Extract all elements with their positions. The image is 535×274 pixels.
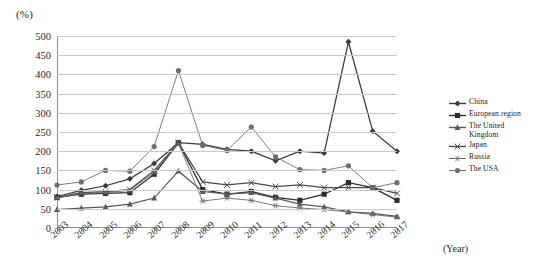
legend-item[interactable]: Russia bbox=[449, 153, 535, 163]
gridline bbox=[57, 190, 397, 191]
data-point-square bbox=[346, 180, 351, 185]
data-point-square bbox=[322, 192, 327, 197]
legend-item[interactable]: China bbox=[449, 98, 535, 108]
data-point-circle bbox=[176, 68, 181, 73]
y-axis-tick-label: 200 bbox=[35, 146, 51, 157]
legend-marker-circle-icon bbox=[449, 166, 466, 175]
chart-legend: ChinaEuropean regionThe United KingdomJa… bbox=[449, 98, 535, 177]
series-the-usa bbox=[54, 68, 399, 190]
data-point-circle bbox=[54, 182, 59, 187]
data-point-square bbox=[394, 198, 399, 203]
y-axis-unit-label: (%) bbox=[16, 8, 33, 20]
y-axis-tick-label: 500 bbox=[35, 31, 51, 42]
data-point-circle bbox=[79, 179, 84, 184]
legend-label: Japan bbox=[469, 141, 487, 150]
data-point-circle bbox=[394, 180, 399, 185]
y-axis-tick-label: 100 bbox=[35, 184, 51, 195]
y-axis-tick-label: 400 bbox=[35, 69, 51, 80]
data-point-diamond bbox=[127, 176, 133, 182]
gridline bbox=[57, 170, 397, 171]
plot-area: 0501001502002503003504004505002003200420… bbox=[57, 36, 397, 228]
gridline bbox=[57, 151, 397, 152]
gridline bbox=[57, 94, 397, 95]
gridline bbox=[57, 36, 397, 37]
data-point-asterisk bbox=[200, 198, 206, 203]
data-point-asterisk bbox=[248, 198, 254, 203]
gridline bbox=[57, 132, 397, 133]
data-point-circle bbox=[200, 143, 205, 148]
legend-label: China bbox=[469, 98, 488, 107]
y-axis-tick-label: 50 bbox=[41, 203, 52, 214]
gridline bbox=[57, 74, 397, 75]
y-axis-tick-label: 300 bbox=[35, 107, 51, 118]
data-point-diamond bbox=[103, 183, 109, 189]
legend-item[interactable]: European region bbox=[449, 110, 535, 120]
legend-marker-line-icon bbox=[449, 142, 466, 151]
gridline bbox=[57, 113, 397, 114]
data-point-asterisk bbox=[454, 156, 460, 161]
legend-item[interactable]: The USA bbox=[449, 165, 535, 175]
y-axis-tick-label: 150 bbox=[35, 165, 51, 176]
legend-label: Russia bbox=[469, 153, 490, 162]
y-axis-tick-label: 250 bbox=[35, 127, 51, 138]
y-axis-tick-label: 350 bbox=[35, 88, 51, 99]
data-point-circle bbox=[346, 163, 351, 168]
legend-item[interactable]: The United Kingdom bbox=[449, 122, 535, 139]
series-line bbox=[57, 42, 397, 197]
data-point-asterisk bbox=[272, 203, 278, 208]
legend-label: European region bbox=[469, 110, 521, 119]
series-china bbox=[54, 39, 400, 200]
legend-label: The United Kingdom bbox=[469, 122, 535, 139]
legend-marker-asterisk-icon bbox=[449, 154, 466, 163]
data-point-circle bbox=[249, 124, 254, 129]
data-point-circle bbox=[152, 144, 157, 149]
legend-label: The USA bbox=[469, 165, 499, 174]
y-axis-tick-label: 450 bbox=[35, 50, 51, 61]
gridline bbox=[57, 55, 397, 56]
gridline bbox=[57, 209, 397, 210]
legend-item[interactable]: Japan bbox=[449, 141, 535, 151]
legend-marker-square-icon bbox=[449, 111, 466, 120]
data-point-circle bbox=[455, 168, 460, 173]
x-axis-title: (Year) bbox=[443, 243, 468, 254]
data-point-circle bbox=[273, 154, 278, 159]
line-chart: (%) 050100150200250300350400450500200320… bbox=[0, 0, 535, 274]
data-point-diamond bbox=[455, 101, 461, 107]
data-point-square bbox=[455, 113, 460, 118]
legend-marker-triangle-icon bbox=[449, 123, 466, 132]
legend-marker-diamond-icon bbox=[449, 99, 466, 108]
data-point-diamond bbox=[345, 39, 351, 45]
